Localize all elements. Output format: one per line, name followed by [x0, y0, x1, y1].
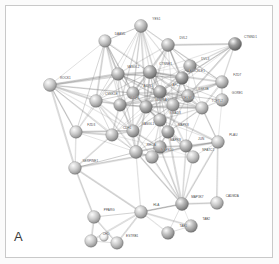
node-sphere-shading — [112, 68, 125, 81]
network-node[interactable] — [114, 99, 126, 111]
network-edge — [50, 85, 75, 168]
network-node[interactable] — [216, 76, 229, 89]
node-label: SERPINE1 — [82, 159, 98, 163]
network-edge — [183, 146, 187, 204]
network-edge — [160, 108, 202, 120]
network-edge — [96, 41, 105, 101]
network-edge — [76, 41, 105, 132]
node-label: CHD — [103, 232, 110, 236]
node-sphere-shading — [85, 235, 97, 247]
network-node[interactable] — [106, 129, 118, 141]
network-edge — [186, 96, 188, 146]
node-label: LRP6 — [131, 96, 139, 100]
node-label: FZD7 — [233, 73, 241, 77]
node-label: HLA — [153, 203, 159, 207]
node-sphere-shading — [196, 102, 208, 114]
node-sphere-shading — [90, 95, 103, 108]
node-sphere-shading — [162, 126, 175, 139]
network-node[interactable] — [70, 126, 82, 138]
node-label: ROCK1 — [60, 76, 71, 80]
network-node[interactable] — [212, 136, 225, 149]
network-node[interactable] — [112, 68, 125, 81]
network-edge — [190, 44, 235, 66]
network-edge — [140, 26, 159, 92]
node-sphere-shading — [187, 151, 199, 163]
node-label: YES1 — [152, 17, 160, 21]
node-label: TAB1 — [179, 224, 187, 228]
network-node[interactable] — [135, 20, 148, 33]
network-node[interactable] — [69, 162, 82, 175]
network-node[interactable] — [90, 95, 103, 108]
node-sphere-shading — [88, 211, 101, 224]
node-sphere-shading — [106, 129, 118, 141]
network-node[interactable] — [162, 126, 175, 139]
network-node[interactable] — [44, 79, 57, 92]
network-edge — [136, 152, 182, 204]
node-label: RHOA — [147, 143, 156, 147]
node-label: GORE1 — [232, 91, 243, 95]
network-node[interactable] — [187, 151, 199, 163]
network-node[interactable] — [85, 235, 97, 247]
network-edge — [94, 212, 141, 217]
node-sphere-shading — [216, 76, 229, 89]
network-node[interactable] — [130, 146, 143, 159]
network-edge — [136, 152, 182, 204]
network-edge — [159, 147, 181, 204]
node-label: ESTRB1 — [126, 234, 138, 238]
node-label: AXIN1 — [144, 84, 153, 88]
network-node[interactable] — [135, 206, 148, 219]
node-label: MAPK10 — [161, 148, 174, 152]
network-node[interactable] — [88, 211, 101, 224]
node-sphere-shading — [135, 20, 148, 33]
network-node[interactable] — [154, 114, 167, 127]
node-label: MAP3K7 — [191, 195, 204, 199]
network-node[interactable] — [167, 99, 179, 111]
node-sphere-shading — [69, 162, 82, 175]
node-sphere-shading — [140, 101, 153, 114]
node-sphere-shading — [44, 79, 57, 92]
node-label: DVL2 — [179, 36, 187, 40]
network-edge — [75, 168, 94, 217]
network-node[interactable] — [111, 237, 123, 249]
node-label: PLAU — [229, 133, 237, 137]
network-node[interactable] — [154, 86, 167, 99]
node-label: DVL3 — [201, 57, 209, 61]
node-sphere-shading — [130, 146, 143, 159]
figure-panel-a: YES1DAAM1DVL2CTNND1DVL3FZD7ROCK1VANGL2CT… — [0, 0, 279, 264]
panel-letter: A — [14, 229, 23, 244]
network-node[interactable] — [176, 198, 189, 211]
network-edge — [136, 152, 141, 212]
network-node[interactable] — [99, 35, 111, 47]
network-edge — [75, 168, 141, 212]
node-sphere-shading — [211, 197, 224, 210]
network-node[interactable] — [229, 38, 242, 51]
network-node[interactable] — [143, 65, 156, 78]
network-node[interactable] — [196, 102, 208, 114]
network-edge — [141, 26, 150, 72]
network-node[interactable] — [180, 140, 192, 152]
network-node[interactable] — [211, 197, 224, 210]
node-sphere-shading — [70, 126, 82, 138]
network-edge — [95, 41, 104, 101]
node-label: NFATC1 — [202, 148, 214, 152]
network-edge — [49, 85, 74, 168]
network-edge — [75, 168, 141, 212]
node-label: VANGL2 — [127, 65, 139, 69]
network-edge — [74, 168, 93, 217]
node-label: MAPK8 — [178, 123, 189, 127]
network-node[interactable] — [162, 227, 175, 240]
network-node[interactable] — [162, 39, 175, 52]
node-label: APC — [172, 83, 179, 87]
node-sphere-shading — [114, 99, 126, 111]
node-sphere-shading — [162, 227, 175, 240]
node-label: TCF7L2 — [211, 99, 222, 103]
node-label: PPARG — [104, 208, 115, 212]
network-node[interactable] — [140, 101, 153, 114]
node-label: MAPK9 — [170, 138, 181, 142]
node-label: JUN — [198, 137, 204, 141]
node-sphere-shading — [176, 198, 189, 211]
node-sphere-shading — [154, 114, 167, 127]
node-label: CADM2A — [226, 194, 239, 198]
network-node[interactable] — [146, 151, 159, 164]
node-label: CTNNB1 — [159, 62, 172, 66]
